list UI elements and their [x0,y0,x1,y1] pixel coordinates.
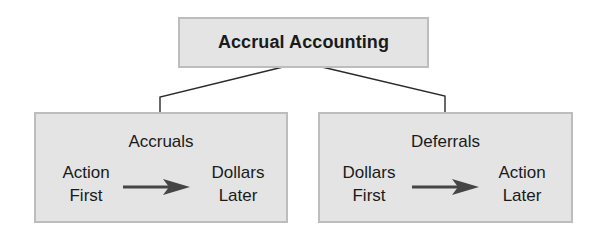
accruals-to-line2: Later [193,184,283,207]
accruals-heading: Accruals [36,132,286,152]
accruals-from: Action First [41,161,131,207]
connector-left [160,67,283,113]
right-arrow-icon [412,178,480,196]
deferrals-from: Dollars First [324,161,414,207]
deferrals-to: Action Later [477,161,567,207]
accruals-from-line1: Action [41,161,131,184]
deferrals-from-line2: First [324,184,414,207]
right-arrow-icon [123,178,191,196]
deferrals-heading: Deferrals [320,132,571,152]
accruals-to: Dollars Later [193,161,283,207]
deferrals-to-line1: Action [477,161,567,184]
node-accruals: Accruals Action First Dollars Later [34,112,288,223]
connector-right [322,67,445,113]
root-title: Accrual Accounting [218,32,389,53]
accruals-to-line1: Dollars [193,161,283,184]
accruals-from-line2: First [41,184,131,207]
deferrals-to-line2: Later [477,184,567,207]
deferrals-from-line1: Dollars [324,161,414,184]
root-node-accrual-accounting: Accrual Accounting [178,17,429,68]
node-deferrals: Deferrals Dollars First Action Later [318,112,573,223]
